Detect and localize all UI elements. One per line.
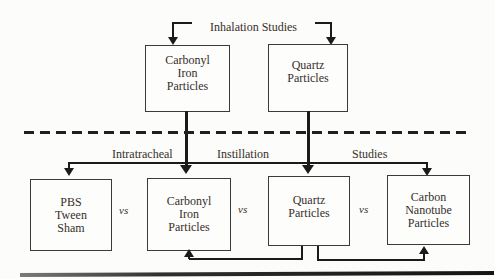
box-text-line: Particles (288, 207, 329, 220)
flow-diagram: Inhalation Studies Carbonyl Iron Particl… (0, 0, 495, 279)
box-carbonyl-iron-inhalation: Carbonyl Iron Particles (145, 45, 230, 112)
box-text-line: Particles (287, 72, 328, 85)
box-text-line: Nanotube (405, 204, 452, 217)
page-rule (20, 271, 494, 277)
distribution-line (68, 162, 428, 164)
vs-label: vs (359, 203, 368, 215)
box-carbonyl-iron-instillation: Carbonyl Iron Particles (147, 178, 231, 251)
arrow-down-icon (302, 165, 314, 174)
dashed-divider (24, 131, 470, 134)
top-left-connector-horizontal (172, 22, 192, 24)
loop-right-horizontal (317, 259, 425, 261)
box-text-line: Carbon (411, 191, 446, 204)
arrow-down-icon (64, 168, 74, 176)
box-quartz-instillation: Quartz Particles (268, 176, 350, 246)
vs-label: vs (119, 204, 128, 216)
box-text-line: Sham (57, 222, 84, 235)
box-text-line: PBS (60, 196, 81, 209)
loop-left-horizontal (189, 258, 303, 260)
box-carbon-nanotube: Carbon Nanotube Particles (387, 175, 470, 245)
instillation-label: Instillation (217, 148, 269, 160)
arrow-down-icon (168, 37, 178, 45)
box-quartz-inhalation: Quartz Particles (268, 44, 348, 112)
box-pbs-tween-sham: PBS Tween Sham (30, 179, 112, 251)
inhalation-studies-label: Inhalation Studies (210, 21, 297, 33)
arrow-down-icon (180, 165, 192, 174)
box-text-line: Particles (167, 80, 208, 93)
box-text-line: Particles (408, 217, 449, 230)
arrow-up-icon (184, 249, 194, 257)
carbonyl-drop-line (185, 111, 188, 167)
loop-right-stem (423, 253, 425, 260)
arrow-up-icon (419, 246, 429, 254)
box-text-line: Particles (168, 221, 209, 234)
intratracheal-label: Intratracheal (112, 148, 173, 160)
quartz-drop-line (307, 111, 310, 167)
vs-label: vs (238, 203, 247, 215)
studies-label: Studies (352, 148, 387, 160)
box-text-line: Tween (55, 209, 87, 222)
